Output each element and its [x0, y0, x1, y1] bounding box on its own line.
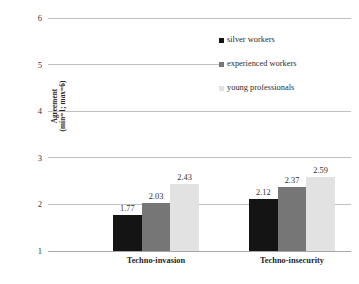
- y-axis-tick-label: 3: [8, 153, 42, 163]
- legend-swatch-experienced-workers: [219, 62, 224, 67]
- bar: 1.77: [113, 215, 142, 251]
- bar-value-label: 1.77: [120, 204, 135, 213]
- y-axis-tick-label: 1: [8, 246, 42, 256]
- y-axis-tick-label: 6: [8, 13, 42, 23]
- y-axis-tick-label: 4: [8, 106, 42, 116]
- bar-value-label: 2.03: [149, 192, 164, 201]
- bar: 2.03: [142, 203, 171, 251]
- bar-value-label: 2.37: [285, 176, 300, 185]
- legend-label: young professionals: [227, 84, 294, 92]
- legend-swatch-young-professionals: [219, 86, 224, 91]
- bar-value-label: 2.43: [177, 173, 192, 182]
- y-axis-tick-label: 5: [8, 60, 42, 70]
- legend-swatch-silver-workers: [219, 38, 224, 43]
- gridline: [48, 157, 351, 158]
- legend-item: young professionals: [219, 76, 359, 100]
- legend-item: silver workers: [219, 28, 359, 52]
- gridline: [48, 111, 351, 112]
- x-axis-category-label: Techno-insecurity: [232, 256, 352, 265]
- legend-label: experienced workers: [227, 60, 297, 68]
- bar-value-label: 2.12: [256, 188, 271, 197]
- gridline: [48, 18, 351, 19]
- legend-item: experienced workers: [219, 52, 359, 76]
- bar-value-label: 2.59: [313, 166, 328, 175]
- legend: silver workers experienced workers young…: [219, 26, 359, 102]
- x-axis-category-label: Techno-invasion: [96, 256, 216, 265]
- bar-chart: Agreement (min=1; max=6) 1234561.772.032…: [0, 0, 359, 284]
- legend-label: silver workers: [227, 36, 275, 44]
- bar: 2.12: [249, 199, 278, 251]
- bar: 2.43: [170, 184, 199, 251]
- bar: 2.37: [278, 187, 307, 251]
- y-axis-tick-label: 2: [8, 199, 42, 209]
- bar: 2.59: [306, 177, 335, 251]
